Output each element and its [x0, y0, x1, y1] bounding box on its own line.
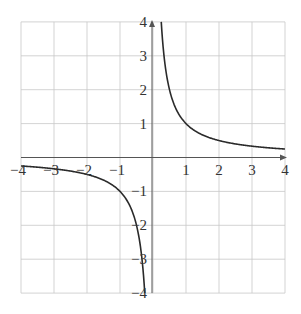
x-tick-label: −4 — [10, 162, 26, 178]
y-tick-label: 2 — [140, 82, 148, 98]
y-axis-arrow-icon — [149, 20, 155, 27]
x-tick-label: 4 — [281, 162, 289, 178]
y-tick-label: 1 — [140, 116, 148, 132]
x-tick-label: 2 — [215, 162, 223, 178]
x-tick-labels: −4−3−2−11234 — [10, 162, 289, 178]
x-axis-arrow-icon — [280, 155, 287, 161]
function-plot: −4−3−2−11234 −4−3−2−11234 — [0, 0, 301, 314]
y-tick-label: 4 — [140, 14, 148, 30]
axes — [21, 20, 287, 293]
x-tick-label: −3 — [43, 162, 59, 178]
x-tick-label: −2 — [76, 162, 92, 178]
y-tick-label: −1 — [131, 183, 147, 199]
y-tick-label: 3 — [140, 48, 148, 64]
curve-positive-branch — [161, 22, 285, 149]
curve-negative-branch — [21, 166, 145, 293]
x-tick-label: 3 — [248, 162, 256, 178]
y-tick-label: −4 — [131, 285, 147, 301]
y-tick-label: −3 — [131, 251, 147, 267]
x-tick-label: 1 — [182, 162, 190, 178]
y-tick-label: −2 — [131, 217, 147, 233]
x-tick-label: −1 — [109, 162, 125, 178]
